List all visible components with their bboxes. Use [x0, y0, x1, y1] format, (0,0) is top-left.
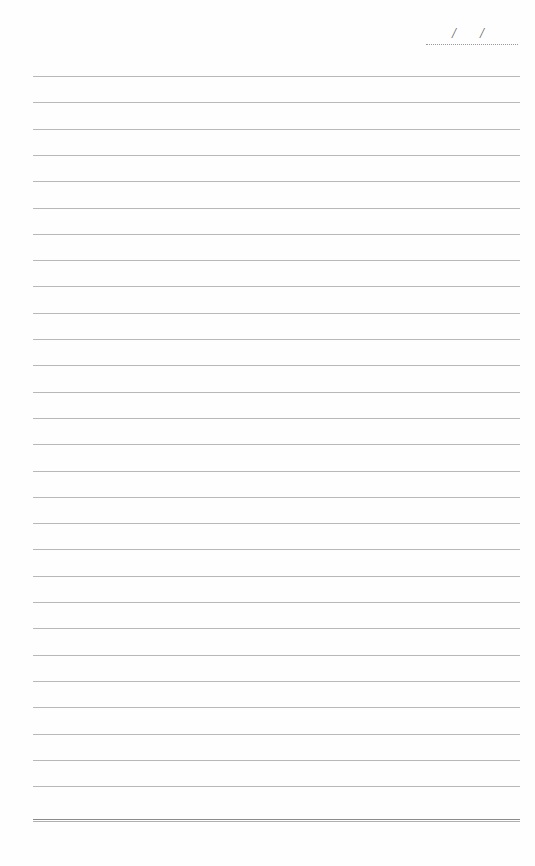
ruled-line [33, 444, 520, 445]
ruled-line [33, 471, 520, 472]
ruled-line [33, 129, 520, 130]
ruled-line [33, 681, 520, 682]
ruled-line [33, 365, 520, 366]
ruled-line [33, 286, 520, 287]
ruled-line [33, 208, 520, 209]
ruled-line [33, 628, 520, 629]
ruled-line [33, 181, 520, 182]
ruled-line [33, 234, 520, 235]
ruled-line [33, 102, 520, 103]
ruled-line [33, 602, 520, 603]
ruled-line [33, 523, 520, 524]
ruled-line [33, 339, 520, 340]
notepaper-page: / / [0, 0, 535, 866]
ruled-line [33, 76, 520, 77]
date-separator-1: / [452, 26, 456, 42]
ruled-line [33, 576, 520, 577]
ruled-line [33, 155, 520, 156]
ruled-line [33, 260, 520, 261]
ruled-line [33, 313, 520, 314]
ruled-line [33, 549, 520, 550]
ruled-line [33, 707, 520, 708]
date-separator-2: / [480, 26, 484, 42]
ruled-line [33, 655, 520, 656]
ruled-line [33, 734, 520, 735]
ruled-line [33, 786, 520, 787]
ruled-line [33, 392, 520, 393]
ruled-line [33, 497, 520, 498]
ruled-line [33, 760, 520, 761]
date-field[interactable]: / / [426, 26, 518, 45]
ruled-line [33, 418, 520, 419]
footer-double-rule [33, 819, 520, 822]
